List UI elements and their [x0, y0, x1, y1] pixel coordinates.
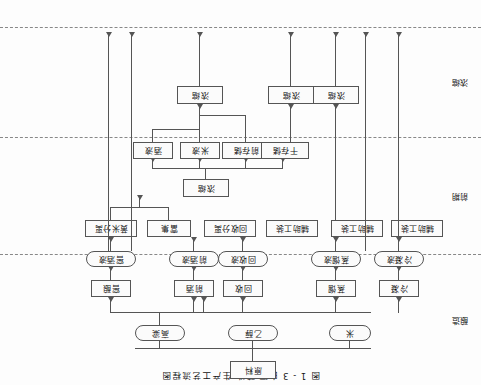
arrow-into-concentrate1 — [333, 104, 339, 109]
connector-sorghum-bus — [111, 312, 371, 313]
connector-bus-to-ethanol — [252, 341, 253, 349]
lane-divider-middle — [0, 137, 481, 138]
lane-label-middle: 前期 — [452, 192, 468, 203]
connector-concentratemid-bus — [153, 168, 283, 169]
node-recover-separation[interactable]: 回收分离 — [204, 220, 256, 237]
connector-wineliquid-up — [152, 130, 153, 142]
node-material-sorghum[interactable]: 高粱 — [135, 325, 185, 341]
output-arrow-3 — [333, 32, 339, 37]
output-arrow-1 — [396, 32, 402, 37]
output-arrow-6 — [129, 32, 135, 37]
connector-store-bus — [199, 115, 246, 116]
output-stem-5 — [199, 33, 200, 86]
output-stem-7 — [108, 33, 109, 251]
node-wet-store[interactable]: 干存储 — [261, 142, 309, 159]
connector-concentratemid-up — [205, 169, 206, 179]
connector-bus-to-sorghum — [159, 341, 160, 349]
arrow-coolingliquid-up — [396, 237, 402, 242]
output-stem-4 — [290, 33, 291, 86]
lane-divider-bottom — [0, 27, 481, 28]
connector-source-stem — [252, 349, 253, 361]
arrow-frontliquid-up — [191, 237, 197, 242]
arrow-into-ferment — [108, 297, 114, 302]
node-material-ethanol[interactable]: 乙醇 — [228, 325, 278, 341]
connector-ricesep-up — [110, 208, 111, 220]
output-stem-3 — [335, 33, 336, 86]
connector-source-bus — [135, 348, 371, 349]
output-stem-2 — [365, 33, 366, 251]
node-concentrate-mid[interactable]: 浓缩 — [183, 179, 229, 197]
arrow-distillliquid-up — [333, 237, 339, 242]
output-arrow-5 — [197, 32, 203, 37]
output-arrow-7 — [106, 32, 112, 37]
node-ferment[interactable]: 窖酿 — [91, 280, 131, 297]
node-distill-liquid[interactable]: 蒸馏液 — [311, 251, 361, 267]
connector-enrich-up — [168, 208, 169, 220]
node-front-liquid[interactable]: 前酒液 — [169, 251, 219, 267]
node-recover[interactable]: 回收 — [223, 280, 263, 297]
arrow-into-front — [191, 297, 197, 302]
connector-auxtool3-up — [335, 106, 336, 220]
arrow-into-concentrate3 — [197, 104, 203, 109]
node-recover-liquid[interactable]: 回收液 — [218, 251, 268, 267]
arrow-merge-to-concentrate — [137, 195, 143, 200]
node-wine-liquid[interactable]: 酒液 — [133, 142, 173, 159]
node-fermented-liquid[interactable]: 窖酒液 — [86, 251, 136, 267]
node-aux-tool-3[interactable]: 辅助工装 — [266, 220, 318, 237]
node-material-rice[interactable]: 米 — [329, 325, 371, 341]
arrow-into-distill — [333, 297, 339, 302]
node-aux-tool-2[interactable]: 辅助工装 — [331, 220, 383, 237]
output-stem-1 — [398, 33, 399, 251]
arrow-into-concentrate2 — [288, 104, 294, 109]
arrow-into-front-second — [201, 297, 207, 302]
arrow-recoverliquid-up — [240, 237, 246, 242]
node-concentrate-3[interactable]: 浓缩 — [177, 86, 223, 104]
lane-label-top: 浓缩 — [452, 78, 468, 89]
node-rice-liquid[interactable]: 米液 — [180, 142, 220, 159]
output-arrow-2 — [363, 32, 369, 37]
connector-sorghum-up — [159, 313, 160, 325]
node-front[interactable]: 前酒 — [174, 280, 214, 297]
node-distill[interactable]: 蒸馏 — [316, 280, 356, 297]
output-stem-6 — [131, 33, 132, 251]
arrow-into-recover — [240, 297, 246, 302]
node-enrich[interactable]: 富集 — [147, 220, 191, 237]
node-cooling-liquid[interactable]: 冷凝液 — [374, 251, 424, 267]
node-concentrate-2[interactable]: 浓缩 — [268, 86, 314, 104]
arrow-into-cooling — [396, 297, 402, 302]
node-concentrate-1[interactable]: 浓缩 — [313, 86, 359, 104]
node-cooling[interactable]: 冷凝 — [379, 280, 419, 297]
connector-mid-merge-bus — [152, 129, 200, 130]
connector-frontstore-up — [245, 116, 246, 142]
lane-label-bottom: 酿造 — [452, 316, 468, 327]
flowchart-canvas: 图 1 - 3 白酒 酿造 生产工艺流程图 酿造 前期 浓缩 原料 高粱 乙醇 … — [0, 0, 481, 385]
connector-wetstore-up — [290, 106, 291, 142]
connector-bus-to-rice — [349, 341, 350, 349]
node-rice-separation[interactable]: 黄米分离 — [85, 220, 137, 237]
node-raw-material[interactable]: 原料 — [230, 361, 276, 379]
output-arrow-4 — [288, 32, 294, 37]
